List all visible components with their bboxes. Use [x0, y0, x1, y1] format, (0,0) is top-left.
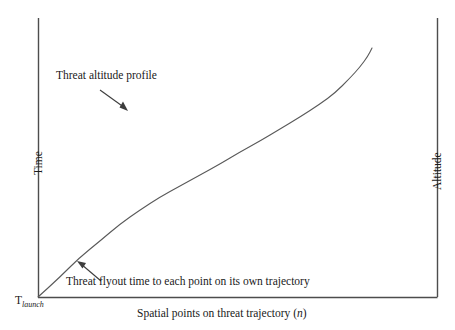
t-launch-base: T [15, 294, 22, 306]
threat-altitude-profile-curve [38, 48, 372, 297]
annotation-threat-flyout-time: Threat flyout time to each point on its … [66, 276, 310, 288]
y-axis-left-title: Time [32, 151, 44, 175]
x-axis-label-main: Spatial points on threat trajectory ( [137, 307, 297, 319]
t-launch-subscript: launch [22, 300, 44, 309]
annotation-top-arrow [100, 90, 128, 111]
y-axis-right-title: Altitude [431, 152, 443, 190]
figure-canvas: Threat altitude profile Threat flyout ti… [0, 0, 455, 330]
t-launch-origin-label: Tlaunch [15, 295, 44, 307]
annotation-threat-altitude-profile: Threat altitude profile [56, 70, 157, 82]
x-axis-label: Spatial points on threat trajectory (n) [137, 308, 307, 320]
x-axis-label-close: ) [303, 307, 307, 319]
